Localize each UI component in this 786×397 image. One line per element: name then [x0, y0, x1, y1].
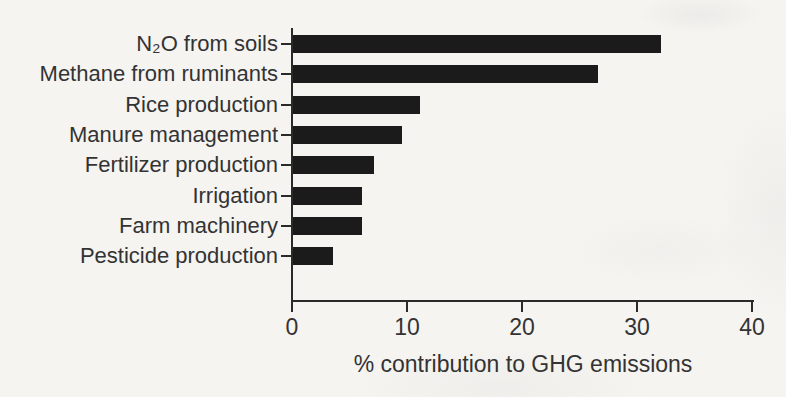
category-label: Fertilizer production: [0, 151, 278, 179]
x-tick-label: 20: [492, 314, 552, 340]
bar: [293, 217, 362, 235]
x-tick-label: 0: [262, 314, 322, 340]
bar: [293, 247, 333, 265]
x-tick: [291, 300, 293, 312]
category-label: Rice production: [0, 91, 278, 119]
bar: [293, 35, 661, 53]
y-tick: [281, 43, 292, 45]
x-tick-label: 10: [377, 314, 437, 340]
bar: [293, 156, 374, 174]
bar: [293, 96, 420, 114]
x-tick: [636, 300, 638, 312]
category-label: Farm machinery: [0, 212, 278, 240]
y-tick: [281, 164, 292, 166]
y-tick: [281, 195, 292, 197]
bar: [293, 65, 598, 83]
bar: [293, 187, 362, 205]
y-tick: [281, 73, 292, 75]
x-tick: [751, 300, 753, 312]
y-tick: [281, 104, 292, 106]
category-label: Irrigation: [0, 182, 278, 210]
category-label: N₂O from soils: [0, 30, 278, 58]
scanned-figure-page: N₂O from soilsMethane from ruminantsRice…: [0, 0, 786, 397]
y-tick: [281, 134, 292, 136]
y-tick: [281, 255, 292, 257]
x-tick: [406, 300, 408, 312]
x-tick: [521, 300, 523, 312]
x-axis-title: % contribution to GHG emissions: [293, 351, 753, 378]
category-label: Manure management: [0, 121, 278, 149]
x-tick-label: 40: [722, 314, 782, 340]
category-label: Pesticide production: [0, 242, 278, 270]
y-tick: [281, 225, 292, 227]
bar: [293, 126, 402, 144]
category-label: Methane from ruminants: [0, 60, 278, 88]
x-tick-label: 30: [607, 314, 667, 340]
